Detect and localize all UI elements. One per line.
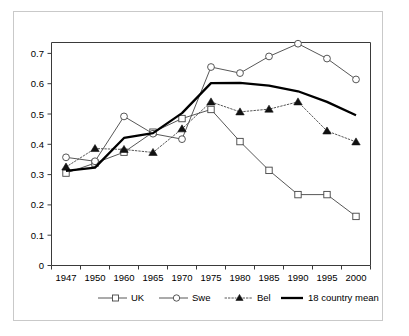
x-tick-label: 1980 [229, 272, 250, 283]
data-point-open-circle [266, 53, 273, 60]
data-point-open-square [324, 191, 330, 197]
chart-legend: UK Swe Bel 18 country mean [98, 292, 379, 303]
x-tick-label: 1975 [200, 272, 221, 283]
y-tick-label: 0.6 [31, 78, 44, 89]
x-tick-label: 1985 [258, 272, 279, 283]
data-point-open-circle [121, 113, 128, 120]
series-uk [63, 106, 359, 219]
chart-svg: 0 0.1 0.2 0.3 0.4 0.5 0.6 0.7 [0, 0, 409, 336]
data-point-open-square [237, 138, 243, 144]
legend-label-bel: Bel [257, 292, 271, 303]
data-point-open-square [208, 106, 214, 112]
legend-label-mean: 18 country mean [308, 292, 379, 303]
legend-item-mean[interactable]: 18 country mean [281, 292, 379, 303]
data-point-open-circle [179, 136, 186, 143]
data-point-open-square [295, 191, 301, 197]
filled-triangle-icon [236, 294, 243, 300]
series-line [66, 109, 356, 216]
data-point-filled-triangle [236, 108, 244, 115]
data-point-open-circle [208, 64, 215, 71]
legend-item-swe[interactable]: Swe [159, 292, 210, 303]
data-point-open-square [266, 167, 272, 173]
line-chart: 0 0.1 0.2 0.3 0.4 0.5 0.6 0.7 [0, 0, 409, 336]
y-axis-ticks: 0 0.1 0.2 0.3 0.4 0.5 0.6 0.7 [31, 48, 52, 271]
open-circle-icon [173, 295, 179, 301]
series-layer [62, 40, 360, 219]
legend-label-uk: UK [131, 292, 145, 303]
y-tick-label: 0.3 [31, 169, 44, 180]
data-point-filled-triangle [62, 163, 70, 170]
y-tick-label: 0.2 [31, 199, 44, 210]
y-tick-label: 0.7 [31, 48, 44, 59]
x-tick-label: 1960 [113, 272, 134, 283]
data-point-filled-triangle [207, 98, 215, 105]
open-square-icon [113, 295, 119, 301]
y-tick-label: 0.1 [31, 230, 44, 241]
x-tick-label: 2000 [345, 272, 366, 283]
x-tick-label: 1995 [316, 272, 337, 283]
data-point-open-square [179, 115, 185, 121]
data-point-open-circle [353, 76, 360, 83]
x-tick-label: 1990 [287, 272, 308, 283]
data-point-open-circle [324, 55, 331, 62]
legend-item-bel[interactable]: Bel [225, 292, 271, 303]
x-tick-label: 1970 [171, 272, 192, 283]
y-tick-label: 0.5 [31, 109, 44, 120]
data-point-open-square [353, 213, 359, 219]
x-tick-label: 1965 [142, 272, 163, 283]
legend-item-uk[interactable]: UK [98, 292, 145, 303]
x-axis-ticks: 1947 1950 1960 1965 1970 1975 1980 1985 … [52, 266, 371, 284]
legend-label-swe: Swe [192, 292, 210, 303]
data-point-filled-triangle [294, 98, 302, 105]
y-tick-label: 0 [39, 260, 44, 271]
data-point-filled-triangle [352, 138, 360, 145]
x-tick-label: 1947 [55, 272, 76, 283]
data-point-open-circle [295, 40, 302, 47]
y-tick-label: 0.4 [31, 139, 44, 150]
x-tick-label: 1950 [84, 272, 105, 283]
data-point-open-circle [237, 70, 244, 77]
data-point-open-circle [63, 154, 70, 161]
data-point-filled-triangle [91, 145, 99, 152]
